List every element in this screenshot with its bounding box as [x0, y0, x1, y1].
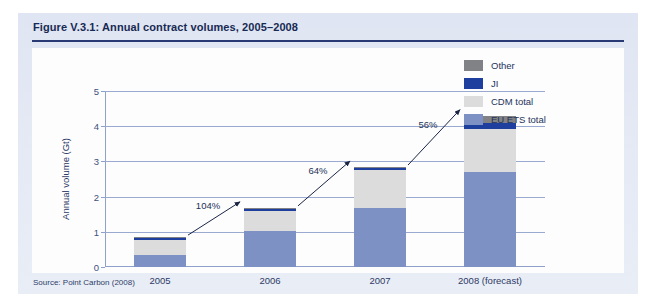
- bar-stack[interactable]: [354, 167, 406, 267]
- y-tick-label: 4: [94, 121, 99, 132]
- bar-segment[interactable]: [134, 240, 186, 255]
- y-tick-mark: [101, 161, 105, 162]
- title-divider: [32, 40, 624, 42]
- growth-label: 56%: [418, 119, 437, 130]
- bar-segment[interactable]: [134, 255, 186, 267]
- y-axis-title: Annual volume (Gt): [60, 91, 72, 267]
- legend-label: CDM total: [491, 96, 533, 107]
- x-tick-label: 2006: [259, 275, 280, 286]
- bar-segment[interactable]: [354, 170, 406, 208]
- growth-label: 64%: [308, 165, 327, 176]
- legend-item[interactable]: EU ETS total: [464, 111, 574, 127]
- bar-group[interactable]: 2006: [244, 208, 296, 267]
- legend-item[interactable]: Other: [464, 57, 574, 73]
- source-note: Source: Point Carbon (2008): [33, 278, 135, 287]
- y-tick-label: 1: [94, 226, 99, 237]
- y-axis-line: [105, 91, 106, 267]
- y-tick-mark: [101, 267, 105, 268]
- figure-container: Figure V.3.1: Annual contract volumes, 2…: [18, 13, 638, 294]
- chart-canvas: Annual volume (Gt) 012345 20052006200720…: [32, 48, 624, 273]
- bar-segment[interactable]: [244, 231, 296, 267]
- y-tick-mark: [101, 197, 105, 198]
- bar-stack[interactable]: [464, 116, 516, 267]
- growth-label: 104%: [196, 200, 220, 211]
- y-tick-mark: [101, 91, 105, 92]
- bar-group[interactable]: 2008 (forecast): [464, 116, 516, 267]
- y-tick-mark: [101, 126, 105, 127]
- chart-legend: OtherJICDM totalEU ETS total: [464, 57, 574, 129]
- bar-segment[interactable]: [464, 129, 516, 172]
- legend-swatch: [464, 78, 483, 89]
- bar-segment[interactable]: [464, 172, 516, 267]
- legend-item[interactable]: CDM total: [464, 93, 574, 109]
- x-tick-label: 2008 (forecast): [458, 275, 522, 286]
- y-tick-label: 2: [94, 191, 99, 202]
- legend-swatch: [464, 96, 483, 107]
- bar-stack[interactable]: [244, 208, 296, 267]
- y-tick-label: 5: [94, 86, 99, 97]
- bar-group[interactable]: 2007: [354, 167, 406, 267]
- y-tick-label: 3: [94, 156, 99, 167]
- legend-swatch: [464, 114, 483, 125]
- bar-segment[interactable]: [244, 211, 296, 231]
- figure-title: Figure V.3.1: Annual contract volumes, 2…: [33, 21, 298, 33]
- x-tick-label: 2007: [369, 275, 390, 286]
- legend-swatch: [464, 60, 483, 71]
- legend-label: Other: [491, 60, 515, 71]
- bar-group[interactable]: 2005: [134, 237, 186, 267]
- legend-item[interactable]: JI: [464, 75, 574, 91]
- figure-title-band: Figure V.3.1: Annual contract volumes, 2…: [18, 13, 638, 48]
- legend-label: JI: [491, 78, 498, 89]
- bar-segment[interactable]: [354, 208, 406, 267]
- y-tick-mark: [101, 232, 105, 233]
- legend-label: EU ETS total: [491, 114, 546, 125]
- x-tick-label: 2005: [149, 275, 170, 286]
- y-tick-label: 0: [94, 262, 99, 273]
- bar-stack[interactable]: [134, 237, 186, 267]
